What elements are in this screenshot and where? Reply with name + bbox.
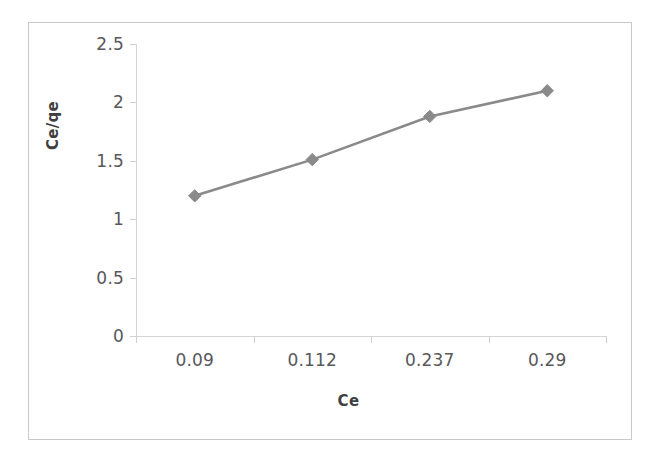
x-axis-title-text: Ce <box>338 392 360 410</box>
y-axis-tick-label: 2.5 <box>64 34 124 54</box>
y-axis-tick-mark <box>130 102 136 103</box>
x-axis-tick-label: 0.237 <box>405 350 455 370</box>
y-axis-tick-label: 2 <box>64 92 124 112</box>
y-axis-tick-mark <box>130 44 136 45</box>
y-axis-line <box>136 44 137 337</box>
y-axis-tick-label: 1.5 <box>64 151 124 171</box>
y-axis-title: Ce/qe <box>44 101 62 150</box>
x-axis-tick-mark <box>606 336 607 343</box>
chart-frame <box>28 22 632 440</box>
y-axis-title-text: Ce/qe <box>44 101 62 150</box>
y-axis-tick-label: 0 <box>64 326 124 346</box>
x-axis-tick-label: 0.112 <box>287 350 337 370</box>
x-axis-tick-label: 0.29 <box>528 350 567 370</box>
y-axis-tick-mark <box>130 278 136 279</box>
x-axis-tick-mark <box>489 336 490 343</box>
y-axis-tick-label: 0.5 <box>64 268 124 288</box>
x-axis-tick-mark <box>254 336 255 343</box>
x-axis-tick-label: 0.09 <box>175 350 214 370</box>
chart-figure: 00.511.522.5 0.090.1120.2370.29 Ce Ce/qe <box>0 0 657 459</box>
y-axis-tick-mark <box>130 219 136 220</box>
y-axis-tick-label: 1 <box>64 209 124 229</box>
x-axis-title: Ce <box>0 392 657 410</box>
y-axis-tick-mark <box>130 161 136 162</box>
x-axis-tick-mark <box>371 336 372 343</box>
x-axis-tick-mark <box>136 336 137 343</box>
